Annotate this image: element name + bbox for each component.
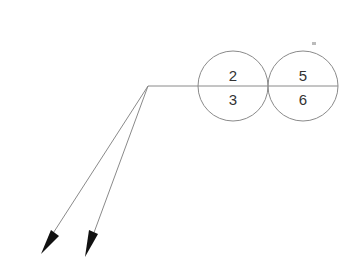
balloon-1-bottom: 3 [229, 91, 237, 108]
leader-line-1 [50, 86, 148, 238]
leader-diagram: 2 3 5 6 [0, 0, 359, 271]
balloon-2-bottom: 6 [299, 91, 307, 108]
balloon-2-top: 5 [299, 67, 307, 84]
leader-line-2 [92, 86, 148, 238]
grip-mark-icon [312, 42, 316, 45]
arrowhead-2-icon [85, 230, 98, 257]
balloon-1-top: 2 [229, 67, 237, 84]
arrowhead-1-icon [41, 230, 59, 254]
